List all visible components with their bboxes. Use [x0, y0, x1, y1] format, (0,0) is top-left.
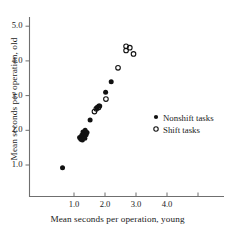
legend-markers — [154, 115, 158, 131]
data-point-filled — [103, 90, 108, 95]
legend-label-shift: Shift tasks — [163, 125, 200, 135]
data-point-filled — [154, 115, 158, 119]
x-tick-label: 3.0 — [125, 199, 147, 209]
data-point-open — [154, 127, 158, 131]
y-tick-label: 2.0 — [1, 124, 23, 134]
data-point-filled — [88, 117, 93, 122]
series-shift-tasks — [92, 44, 136, 114]
scatter-plot-figure: Mean seconds per operation, old Mean sec… — [0, 0, 235, 234]
data-point-filled — [60, 165, 65, 170]
data-point-filled — [85, 130, 90, 135]
x-axis-title: Mean seconds per operation, young — [0, 214, 235, 224]
legend-label-nonshift: Nonshift tasks — [163, 113, 214, 123]
series-nonshift-tasks — [60, 79, 114, 170]
x-tick-label: 1.0 — [63, 199, 85, 209]
y-axis-ticks — [26, 26, 30, 165]
data-point-open — [116, 66, 121, 71]
x-axis-ticks — [74, 193, 198, 197]
data-point-open — [131, 52, 136, 57]
y-tick-label: 4.0 — [1, 55, 23, 65]
y-tick-label: 5.0 — [1, 20, 23, 30]
y-tick-label: 3.0 — [1, 90, 23, 100]
y-tick-label: 1.0 — [1, 159, 23, 169]
x-tick-label: 4.0 — [156, 199, 178, 209]
data-point-filled — [109, 79, 114, 84]
data-point-open — [104, 97, 109, 102]
x-tick-label: 2.0 — [94, 199, 116, 209]
